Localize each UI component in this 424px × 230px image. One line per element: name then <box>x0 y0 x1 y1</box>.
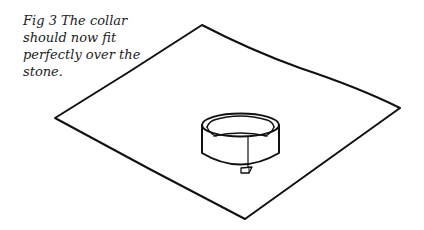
collar-illustration <box>0 0 424 230</box>
